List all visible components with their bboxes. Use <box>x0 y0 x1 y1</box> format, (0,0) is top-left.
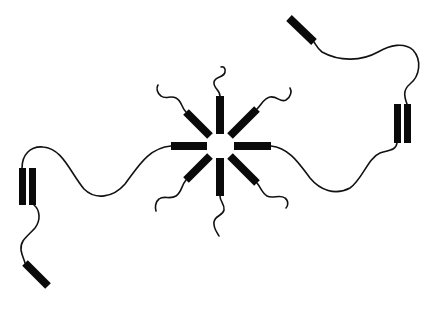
tail-southwest <box>155 180 186 211</box>
tail-northwest <box>157 85 186 112</box>
tail-northeast <box>257 88 291 109</box>
tail-north <box>214 67 225 96</box>
helix-southwest <box>186 156 210 180</box>
right-helix-b <box>404 104 411 143</box>
helix-southeast <box>230 156 257 183</box>
right-terminal-helix <box>289 18 314 42</box>
left-helix-a <box>19 168 26 205</box>
left-helix-domain <box>19 168 48 286</box>
central-bundle-tails <box>155 67 291 236</box>
left-helix-b <box>29 168 36 205</box>
tail-southeast <box>257 183 288 208</box>
right-helix-domain <box>289 18 411 143</box>
helix-northeast <box>230 109 257 136</box>
right-helix-a <box>394 104 401 143</box>
left-terminal-helix <box>25 263 48 286</box>
protein-topology-diagram <box>0 0 440 309</box>
loop-left-to-terminal <box>21 205 39 263</box>
helix-northwest <box>186 112 210 136</box>
loop-left-to-center <box>22 146 171 196</box>
loop-center-to-right <box>271 143 397 192</box>
loop-right-to-terminal <box>314 42 419 104</box>
connecting-loops <box>21 42 419 263</box>
tail-south <box>214 196 224 236</box>
